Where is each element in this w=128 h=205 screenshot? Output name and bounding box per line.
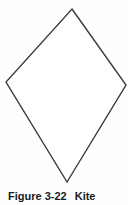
figure-caption-label: Figure 3-22 [8, 190, 67, 202]
figure-caption: Figure 3-22 Kite [0, 186, 128, 205]
kite-figure-illustration [0, 0, 128, 186]
kite-polygon [6, 9, 126, 182]
kite-shape-svg [0, 0, 128, 186]
figure-caption-title: Kite [75, 190, 96, 202]
figure-page: Figure 3-22 Kite [0, 0, 128, 205]
